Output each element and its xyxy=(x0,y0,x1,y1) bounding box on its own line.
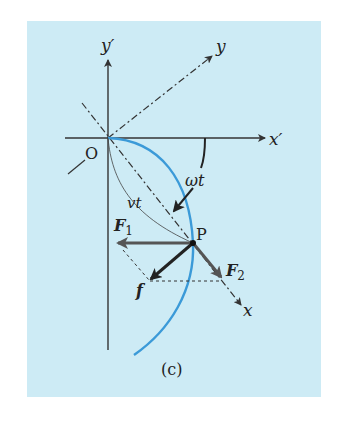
point-p-label: P xyxy=(196,225,207,244)
figure-panel xyxy=(27,21,321,397)
y-prime-label: y′ xyxy=(100,35,115,55)
origin-label: O xyxy=(85,144,98,163)
panel-label: (c) xyxy=(161,360,182,379)
vt-label: vt xyxy=(127,194,142,212)
x-prime-label: x′ xyxy=(269,129,283,149)
rotating-frame-diagram: y′ y x′ O ωt vt P F1 F2 f x (c) xyxy=(0,0,338,423)
y-label: y xyxy=(215,36,226,56)
omega-t-label: ωt xyxy=(185,171,205,190)
x-label: x xyxy=(243,300,253,320)
